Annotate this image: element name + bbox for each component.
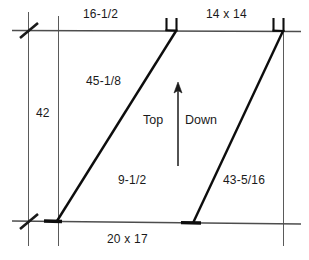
flow-down-label: Down [185,114,217,127]
lower-diagonal-line [193,31,283,223]
flow-top-label: Top [143,114,163,127]
technical-drawing: 16-1/2 14 x 14 42 45-1/8 9-1/2 43-5/16 2… [0,0,309,260]
drawing-canvas [0,0,309,260]
lower-left-dimension-label: 9-1/2 [118,174,146,186]
left-vertical-dimension-label: 42 [36,107,50,119]
top-left-dimension-label: 16-1/2 [83,8,118,20]
lower-notch-bracket-icon [273,18,285,32]
lower-right-diagonal-dimension-label: 43-5/16 [223,174,265,186]
upper-diagonal-foot-icon [44,221,62,222]
flow-direction-arrow-icon [174,82,182,166]
upper-diagonal-dimension-label: 45-1/8 [86,75,121,87]
top-right-dimension-label: 14 x 14 [206,8,247,20]
top-rail-line [12,31,301,32]
bottom-dimension-label: 20 x 17 [107,233,148,245]
upper-notch-bracket-icon [166,18,178,31]
